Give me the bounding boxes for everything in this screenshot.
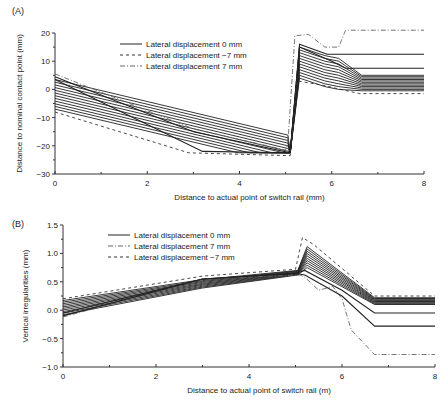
x-axis-label: Distance to actual point of switch rail … — [174, 193, 325, 202]
y-tick-label: −20 — [36, 142, 50, 151]
family-line — [63, 249, 435, 302]
panel-b-chart: (B)1.51.00.50.0−0.5−1.002468Distance to … — [12, 219, 438, 395]
y-axis-label: Vertical irregularities (mm) — [21, 249, 30, 342]
x-tick-label: 0 — [53, 179, 58, 188]
family-line — [55, 73, 424, 153]
y-tick-label: 0 — [46, 85, 51, 94]
figure: (A)20100−10−20−3002468Distance to actual… — [0, 0, 445, 400]
family-line — [55, 64, 424, 153]
legend-label: Lateral displacement 0 mm — [134, 231, 230, 240]
x-tick-label: 8 — [422, 179, 427, 188]
y-tick-label: 0.5 — [47, 278, 59, 287]
panel-a-chart: (A)20100−10−20−3002468Distance to actual… — [12, 6, 427, 202]
y-tick-label: 10 — [41, 57, 50, 66]
x-tick-label: 8 — [433, 372, 438, 381]
family-line — [63, 247, 435, 301]
x-tick-label: 2 — [145, 179, 150, 188]
legend-label: Lateral displacement 0 mm — [146, 40, 242, 49]
x-tick-label: 4 — [237, 179, 242, 188]
y-tick-label: −1.0 — [42, 363, 58, 372]
y-axis-label: Distance to nominal contact point (mm) — [15, 34, 24, 173]
y-tick-label: 0.0 — [47, 306, 59, 315]
legend-label: Lateral displacement 7 mm — [146, 62, 242, 71]
series-line — [63, 238, 435, 299]
legend-label: Lateral displacement 7 mm — [134, 242, 230, 251]
y-tick-label: 20 — [41, 29, 50, 38]
x-tick-label: 0 — [61, 372, 66, 381]
x-tick-label: 4 — [247, 372, 252, 381]
legend-label: Lateral displacement −7 mm — [134, 253, 235, 262]
x-tick-label: 6 — [340, 372, 345, 381]
panel-label: (B) — [12, 219, 24, 229]
panel-label: (A) — [12, 6, 24, 16]
y-tick-label: 1.0 — [47, 249, 59, 258]
family-line — [55, 58, 424, 152]
series-line — [63, 275, 435, 355]
y-tick-label: 1.5 — [47, 221, 59, 230]
series-line — [55, 81, 424, 156]
y-tick-label: −10 — [36, 114, 50, 123]
y-tick-label: −0.5 — [42, 335, 58, 344]
legend-label: Lateral displacement −7 mm — [146, 51, 247, 60]
chart-canvas: (A)20100−10−20−3002468Distance to actual… — [0, 0, 445, 400]
x-tick-label: 6 — [330, 179, 335, 188]
x-tick-label: 2 — [154, 372, 159, 381]
x-axis-label: Distance to actual point of switch rail … — [187, 386, 331, 395]
y-tick-label: −30 — [36, 170, 50, 179]
